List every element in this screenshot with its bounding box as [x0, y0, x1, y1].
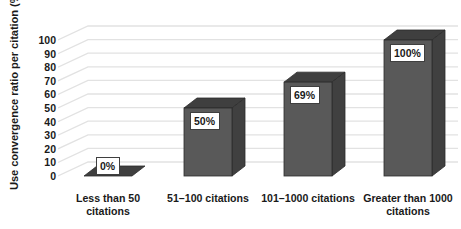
y-axis-tick-label: 60 [26, 89, 56, 100]
bar-data-label: 50% [190, 112, 220, 130]
y-axis-tick-label: 0 [26, 171, 56, 182]
x-axis-category-label: 51–100 citations [158, 192, 258, 205]
bar-data-label: 0% [96, 157, 120, 175]
x-axis-category-label: Less than 50citations [58, 192, 158, 218]
bar-chart-3d: Use convergence ratio per citation (%) 1… [0, 0, 461, 229]
y-axis-tick-label: 100 [26, 35, 56, 46]
y-axis-tick-label: 80 [26, 62, 56, 73]
x-axis-category-label: 101–1000 citations [258, 192, 358, 205]
y-axis-tick-label: 10 [26, 157, 56, 168]
y-axis-tick-label: 90 [26, 48, 56, 59]
x-label-line-2: citations [58, 205, 158, 218]
y-axis-tick-label: 20 [26, 144, 56, 155]
x-label-line-1: Greater than 1000 [358, 192, 458, 205]
y-axis-tick-labels: 1009080706050403020100 [26, 0, 56, 229]
bar-side-face [232, 98, 245, 176]
y-axis-tick-label: 70 [26, 76, 56, 87]
bar-side-face [332, 72, 345, 176]
x-label-line-1: 101–1000 citations [258, 192, 358, 205]
bar-data-label: 100% [390, 44, 426, 62]
x-label-line-1: 51–100 citations [158, 192, 258, 205]
y-axis-title: Use convergence ratio per citation (%) [3, 4, 25, 190]
x-label-line-2: citations [358, 205, 458, 218]
y-axis-tick-label: 30 [26, 130, 56, 141]
bar-data-label: 69% [290, 86, 320, 104]
x-axis-category-labels: Less than 50citations51–100 citations101… [58, 192, 458, 229]
bar-side-face [432, 30, 445, 176]
x-axis-category-label: Greater than 1000citations [358, 192, 458, 218]
x-label-line-1: Less than 50 [58, 192, 158, 205]
y-axis-tick-label: 50 [26, 103, 56, 114]
y-axis-tick-label: 40 [26, 116, 56, 127]
